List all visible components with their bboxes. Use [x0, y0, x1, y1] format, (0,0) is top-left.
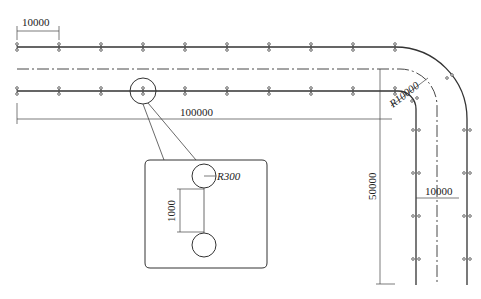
dim-spacing-top — [17, 26, 59, 40]
detail-radius-label: R300 — [216, 170, 241, 182]
track-drawing: 10000 100000 50000 R10000 10000 R300 100… — [0, 0, 481, 299]
dim-spacing-top-label: 10000 — [22, 16, 50, 28]
detail-spacing-label: 1000 — [165, 200, 177, 223]
detail-circle-bottom — [192, 233, 216, 257]
dim-vertical-length-label: 50000 — [366, 172, 378, 200]
dim-total-length-label: 100000 — [180, 106, 214, 118]
dim-gauge-label: 10000 — [425, 185, 453, 197]
drawing-canvas: 10000 100000 50000 R10000 10000 R300 100… — [0, 0, 481, 299]
detail-leader-left — [143, 104, 164, 160]
sleepers-vertical — [411, 74, 472, 261]
